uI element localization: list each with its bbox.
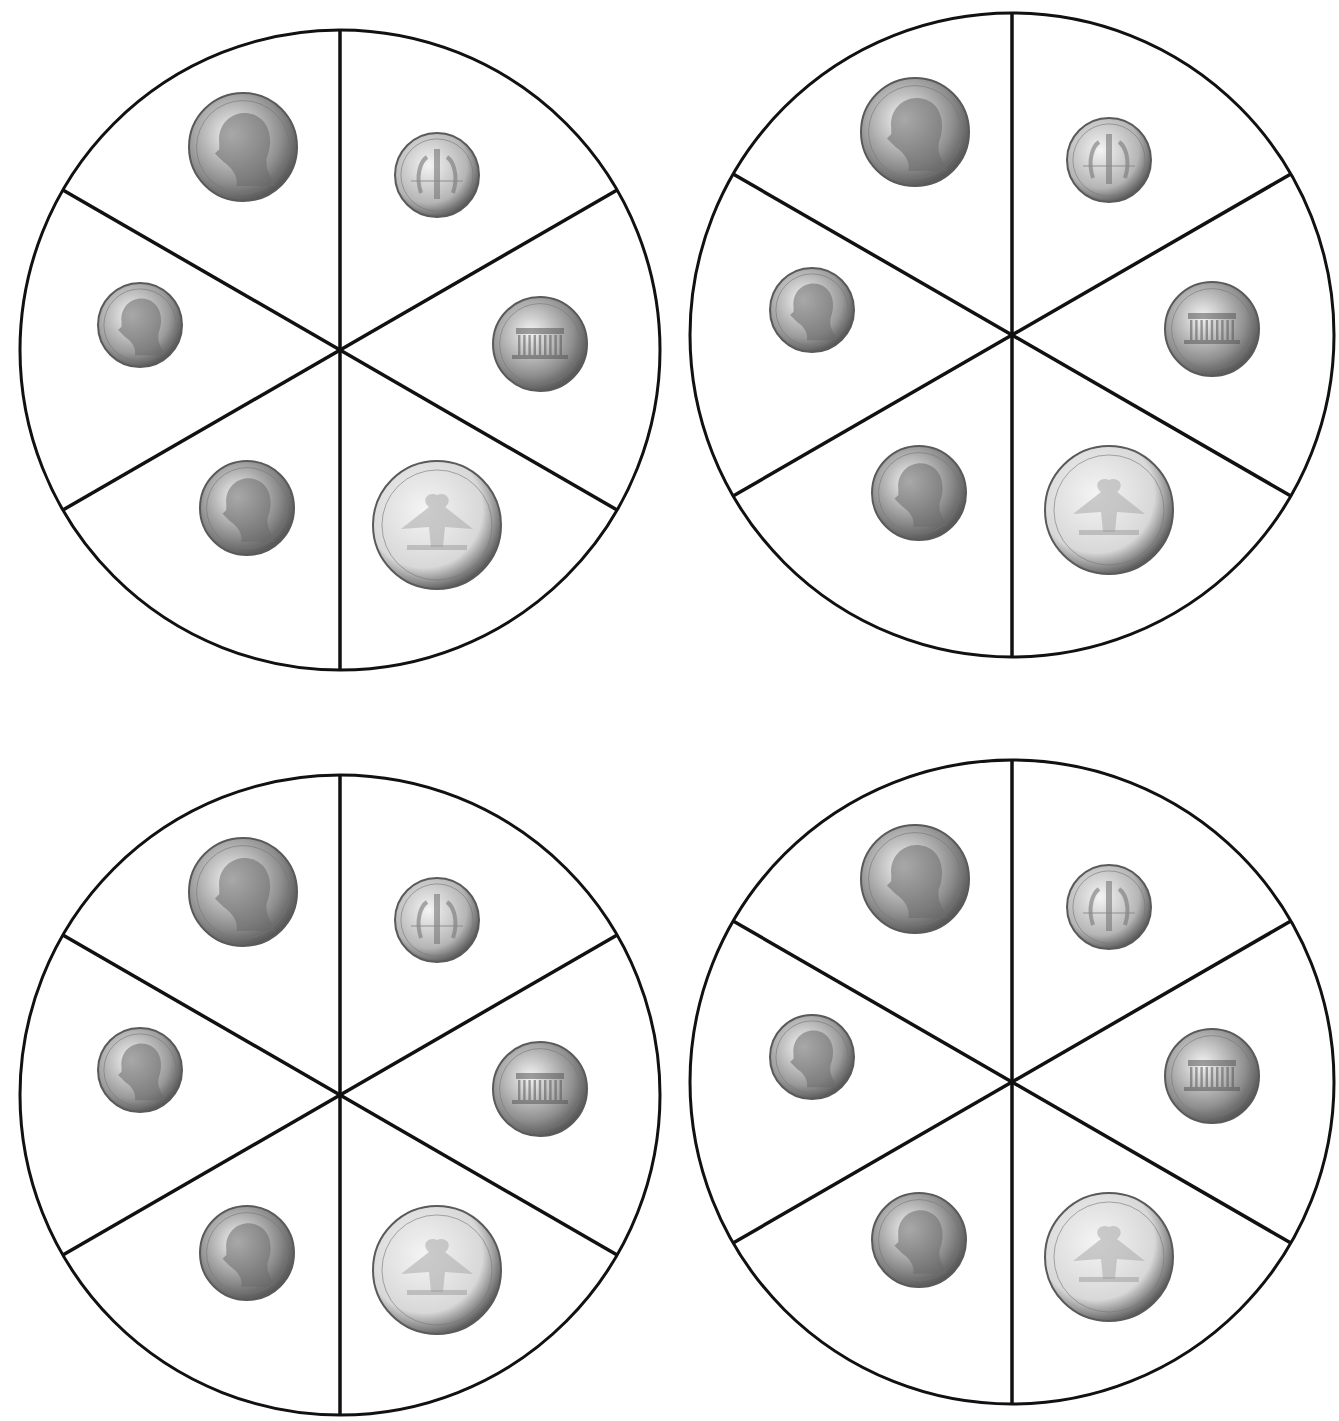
spinner-section-upper-right: Dime — [1067, 865, 1151, 949]
spinner-section-left: Dime — [98, 283, 182, 367]
dime-obverse-coin: Dime — [98, 283, 182, 367]
nickel-obverse-coin: Nickel — [861, 825, 969, 933]
penny-reverse-coin: Penny — [1165, 1029, 1259, 1123]
dime-obverse-coin: Dime — [770, 1015, 854, 1099]
spinner-bottom-right: NickelDimeDimePennyPennyQuarter — [684, 754, 1339, 1410]
spinner-top-left: NickelDimeDimePennyPennyQuarter — [14, 24, 666, 676]
quarter-reverse-coin: Quarter — [373, 1206, 501, 1334]
spinner-section-upper-left: Nickel — [189, 838, 297, 946]
spinner-top-right: NickelDimeDimePennyPennyQuarter — [684, 7, 1339, 663]
penny-obverse-coin: Penny — [200, 461, 294, 555]
penny-obverse-coin: Penny — [872, 1193, 966, 1287]
dime-reverse-coin: Dime — [1067, 118, 1151, 202]
spinner-section-upper-left: Nickel — [189, 93, 297, 201]
dime-reverse-coin: Dime — [395, 878, 479, 962]
spinner-section-upper-left: Nickel — [861, 78, 969, 186]
penny-reverse-coin: Penny — [1165, 282, 1259, 376]
nickel-obverse-coin: Nickel — [189, 838, 297, 946]
spinner-section-left: Dime — [98, 1028, 182, 1112]
spinner-section-lower-left: Penny — [200, 1206, 294, 1300]
spinner-section-lower-right: Quarter — [1045, 1193, 1173, 1321]
spinner-section-lower-left: Penny — [200, 461, 294, 555]
spinner-section-right: Penny — [1165, 1029, 1259, 1123]
spinner-section-upper-right: Dime — [395, 133, 479, 217]
spinner-section-right: Penny — [1165, 282, 1259, 376]
spinner-section-right: Penny — [493, 297, 587, 391]
dime-reverse-coin: Dime — [1067, 865, 1151, 949]
nickel-obverse-coin: Nickel — [861, 78, 969, 186]
spinner-section-upper-right: Dime — [395, 878, 479, 962]
spinner-section-lower-left: Penny — [872, 1193, 966, 1287]
spinner-section-lower-right: Quarter — [373, 461, 501, 589]
spinner-section-left: Dime — [770, 268, 854, 352]
dime-obverse-coin: Dime — [770, 268, 854, 352]
penny-obverse-coin: Penny — [872, 446, 966, 540]
penny-obverse-coin: Penny — [200, 1206, 294, 1300]
dime-reverse-coin: Dime — [395, 133, 479, 217]
penny-reverse-coin: Penny — [493, 297, 587, 391]
spinner-section-lower-left: Penny — [872, 446, 966, 540]
spinner-section-left: Dime — [770, 1015, 854, 1099]
quarter-reverse-coin: Quarter — [1045, 446, 1173, 574]
spinner-section-lower-right: Quarter — [1045, 446, 1173, 574]
spinner-section-lower-right: Quarter — [373, 1206, 501, 1334]
quarter-reverse-coin: Quarter — [373, 461, 501, 589]
nickel-obverse-coin: Nickel — [189, 93, 297, 201]
spinner-bottom-left: NickelDimeDimePennyPennyQuarter — [14, 769, 666, 1421]
spinner-section-upper-right: Dime — [1067, 118, 1151, 202]
spinner-section-upper-left: Nickel — [861, 825, 969, 933]
penny-reverse-coin: Penny — [493, 1042, 587, 1136]
quarter-reverse-coin: Quarter — [1045, 1193, 1173, 1321]
spinner-section-right: Penny — [493, 1042, 587, 1136]
dime-obverse-coin: Dime — [98, 1028, 182, 1112]
